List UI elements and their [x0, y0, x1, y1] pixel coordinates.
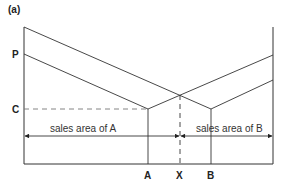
label-a: A — [144, 170, 151, 181]
spatial-price-diagram: (a) sales area of A sales area of B P C … — [0, 0, 288, 186]
delivered-price-line-b-upper — [148, 55, 273, 109]
label-p: P — [12, 49, 19, 60]
sales-area-b-label: sales area of B — [196, 123, 263, 134]
panel-label: (a) — [8, 4, 20, 15]
label-c: C — [12, 104, 19, 115]
delivered-price-line-b-lower — [211, 80, 273, 109]
sales-area-a-label: sales area of A — [50, 123, 116, 134]
label-x: X — [176, 170, 183, 181]
delivered-price-line-a-upper — [24, 27, 211, 109]
delivered-price-line-a-lower — [24, 54, 148, 109]
vertical-a — [148, 109, 164, 164]
label-b: B — [207, 170, 214, 181]
